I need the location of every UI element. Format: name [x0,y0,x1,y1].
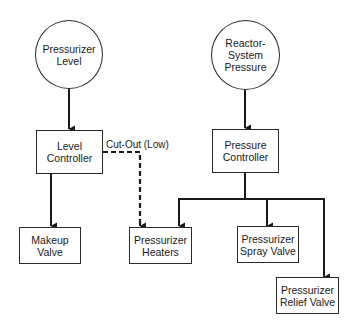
relief-valve-node: Pressurizer Relief Valve [276,277,339,314]
reactor-pressure-node: Reactor- System Pressure [211,20,280,90]
makeup-valve-label: Makeup Valve [31,234,68,258]
spray-valve-node: Pressurizer Spray Valve [237,226,299,263]
level-controller-node: Level Controller [36,130,103,174]
pressure-controller-node: Pressure Controller [212,129,279,173]
makeup-valve-node: Makeup Valve [19,227,81,264]
reactor-pressure-label: Reactor- System Pressure [224,37,266,73]
edge-cutout-dashed [103,152,140,226]
relief-valve-label: Pressurizer Relief Valve [280,284,335,308]
pressurizer-level-label: Pressurizer Level [42,43,95,67]
spray-valve-label: Pressurizer Spray Valve [240,233,296,257]
level-controller-label: Level Controller [47,140,93,164]
cutout-low-label: Cut-Out (Low) [106,139,169,151]
pressure-controller-label: Pressure Controller [223,139,269,163]
pressurizer-heaters-label: Pressurizer Heaters [134,234,187,258]
pressurizer-level-node: Pressurizer Level [35,20,103,89]
pressurizer-heaters-node: Pressurizer Heaters [129,227,192,264]
